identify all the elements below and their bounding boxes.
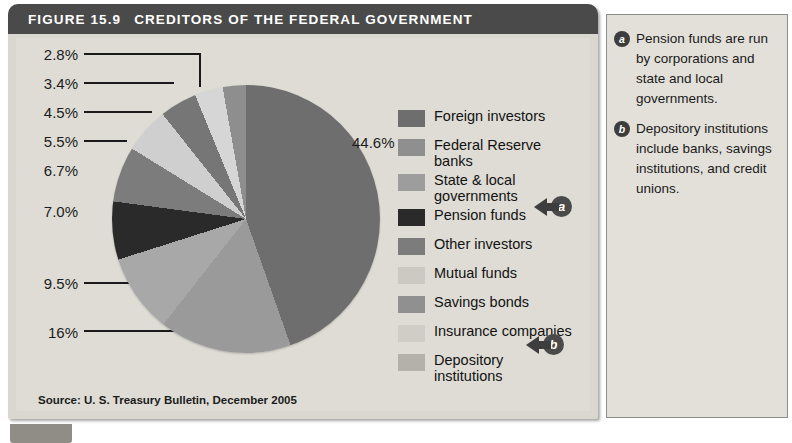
arrow-left-icon-a	[534, 198, 547, 216]
note-marker-a: a	[614, 31, 630, 47]
legend-label-federal-reserve-banks: Federal Reserve banks	[434, 137, 544, 169]
pct-label-7-0: 7.0%	[26, 203, 78, 220]
legend-swatch-savings-bonds	[398, 296, 425, 313]
legend-swatch-mutual-funds	[398, 267, 425, 284]
legend-item-federal-reserve-banks[interactable]: Federal Reserve banks	[398, 137, 588, 169]
figure-card: FIGURE 15.9 CREDITORS OF THE FEDERAL GOV…	[8, 4, 598, 419]
pct-label-2-8: 2.8%	[26, 46, 78, 63]
pct-label-4-5: 4.5%	[26, 104, 78, 121]
figure-source: Source: U. S. Treasury Bulletin, Decembe…	[38, 394, 297, 406]
legend-item-savings-bonds[interactable]: Savings bonds	[398, 294, 588, 320]
legend-swatch-depository-institutions	[398, 354, 425, 371]
note-text-a: Pension funds are run by corporations an…	[636, 29, 779, 109]
callout-a[interactable]: a	[534, 196, 572, 217]
legend-item-foreign-investors[interactable]: Foreign investors	[398, 108, 588, 134]
figure-title-bar: FIGURE 15.9 CREDITORS OF THE FEDERAL GOV…	[8, 4, 598, 34]
note-b: b Depository institutions include banks,…	[614, 119, 779, 199]
pct-label-9-5: 9.5%	[26, 275, 78, 292]
legend-swatch-insurance-companies	[398, 325, 425, 342]
legend-label-foreign-investors: Foreign investors	[434, 108, 545, 125]
legend-item-depository-institutions[interactable]: Depository institutions	[398, 352, 588, 384]
legend-label-state-local-governments: State & local governments	[434, 172, 546, 204]
plot-area: 2.8% 3.4% 4.5% 5.5% 6.7% 7.0% 9.5% 16%	[16, 38, 590, 411]
legend-swatch-foreign-investors	[398, 110, 425, 127]
page-corner-stub	[10, 424, 72, 443]
pct-label-6-7: 6.7%	[26, 162, 78, 179]
legend-label-pension-funds: Pension funds	[434, 207, 526, 224]
notes-panel: a Pension funds are run by corporations …	[606, 14, 788, 418]
pct-label-44-6: 44.6%	[352, 134, 395, 151]
callout-b[interactable]: b	[526, 334, 564, 355]
pie-chart	[112, 85, 380, 353]
arrow-left-icon-b	[526, 336, 539, 354]
note-a: a Pension funds are run by corporations …	[614, 29, 779, 109]
note-marker-b: b	[614, 121, 630, 137]
leader-line-2-8-h	[84, 53, 201, 55]
pct-label-5-5: 5.5%	[26, 133, 78, 150]
figure-root: FIGURE 15.9 CREDITORS OF THE FEDERAL GOV…	[0, 0, 792, 443]
legend-label-other-investors: Other investors	[434, 236, 532, 253]
note-text-b: Depository institutions include banks, s…	[636, 119, 779, 199]
legend-swatch-other-investors	[398, 238, 425, 255]
legend-swatch-federal-reserve-banks	[398, 139, 425, 156]
figure-number: FIGURE 15.9	[8, 12, 121, 27]
legend-swatch-pension-funds	[398, 209, 425, 226]
legend-item-other-investors[interactable]: Other investors	[398, 236, 588, 262]
pct-label-3-4: 3.4%	[26, 75, 78, 92]
legend-swatch-state-local-governments	[398, 174, 425, 191]
pct-label-16: 16%	[26, 324, 78, 341]
leader-line-3-4	[84, 82, 174, 84]
pie-slices	[112, 85, 380, 353]
legend-label-depository-institutions: Depository institutions	[434, 352, 530, 384]
leader-line-2-8-v	[199, 53, 201, 87]
figure-title: CREDITORS OF THE FEDERAL GOVERNMENT	[121, 12, 473, 27]
legend-label-savings-bonds: Savings bonds	[434, 294, 529, 311]
legend-label-mutual-funds: Mutual funds	[434, 265, 517, 282]
legend-item-mutual-funds[interactable]: Mutual funds	[398, 265, 588, 291]
